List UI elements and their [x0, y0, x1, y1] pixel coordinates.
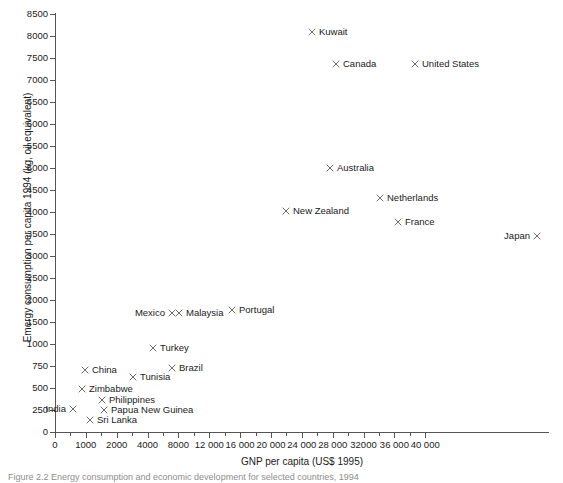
x-axis-minor-tick — [225, 433, 226, 436]
y-axis-tick-label: 7500 — [2, 53, 48, 63]
data-point-label: Brazil — [179, 363, 203, 373]
x-axis-tick — [209, 433, 210, 438]
plot-area: KuwaitCanadaUnited StatesAustraliaNether… — [55, 13, 548, 432]
cross-marker-icon — [282, 207, 290, 215]
cross-marker-icon — [98, 396, 106, 404]
y-axis-tick-label: 8000 — [2, 31, 48, 41]
y-axis-tick-label: 3500 — [2, 229, 48, 239]
x-axis-tick-label: 20 000 — [256, 440, 285, 450]
x-axis-minor-tick — [286, 433, 287, 436]
x-axis-minor-tick — [410, 433, 411, 436]
y-axis-tick-label: 8500 — [2, 9, 48, 19]
y-axis-tick-label: 2000 — [2, 295, 48, 305]
cross-marker-icon — [168, 309, 176, 317]
data-point-label: Australia — [337, 163, 374, 173]
cross-marker-icon — [69, 405, 77, 413]
cross-marker-icon — [129, 373, 137, 381]
y-axis-tick-label: 4000 — [2, 207, 48, 217]
data-point-label: Malaysia — [186, 308, 224, 318]
x-axis-title: GNP per capita (US$ 1995) — [55, 456, 549, 467]
x-axis-minor-tick — [194, 433, 195, 436]
y-axis-tick-label: 750 — [2, 361, 48, 371]
x-axis-tick — [117, 433, 118, 438]
cross-marker-icon — [533, 232, 541, 240]
x-axis-tick — [364, 433, 365, 438]
x-axis-tick — [271, 433, 272, 438]
cross-marker-icon — [175, 309, 183, 317]
x-axis-tick-label: 12 000 — [195, 440, 224, 450]
x-axis-tick-label: 1000 — [75, 440, 96, 450]
x-axis-tick — [55, 433, 56, 438]
x-axis-tick-label: 40 000 — [411, 440, 440, 450]
cross-marker-icon — [332, 60, 340, 68]
data-point-label: Tunisia — [140, 372, 170, 382]
data-point-label: Zimbabwe — [89, 384, 133, 394]
x-axis-minor-tick — [70, 433, 71, 436]
data-point-label: Japan — [504, 231, 530, 241]
cross-marker-icon — [411, 60, 419, 68]
y-axis-tick-label: 0 — [2, 427, 48, 437]
x-axis-tick — [86, 433, 87, 438]
data-point-label: China — [92, 365, 117, 375]
data-point-label: Netherlands — [387, 193, 438, 203]
x-axis-minor-tick — [256, 433, 257, 436]
data-point-label: Turkey — [160, 343, 189, 353]
x-axis-tick — [425, 433, 426, 438]
cross-marker-icon — [228, 306, 236, 314]
y-axis-tick-label: 5000 — [2, 163, 48, 173]
y-axis-tick-label: 2500 — [2, 273, 48, 283]
x-axis-tick — [148, 433, 149, 438]
data-point-label: Mexico — [135, 308, 165, 318]
cross-marker-icon — [81, 366, 89, 374]
data-point-label: Kuwait — [319, 27, 348, 37]
x-axis-tick-label: 0 — [52, 440, 57, 450]
data-point-label: India — [45, 404, 66, 414]
x-axis-tick-label: 4000 — [137, 440, 158, 450]
y-axis-tick-label: 7000 — [2, 75, 48, 85]
cross-marker-icon — [376, 194, 384, 202]
y-axis-tick-label: 5500 — [2, 141, 48, 151]
x-axis-tick — [178, 433, 179, 438]
y-axis-tick-label: 6000 — [2, 119, 48, 129]
y-axis-tick-label: 6500 — [2, 97, 48, 107]
y-axis-tick-label: 4500 — [2, 185, 48, 195]
scatter-chart-figure: Emergy consumption per capita 1994 (kg, … — [0, 0, 563, 483]
x-axis-minor-tick — [348, 433, 349, 436]
x-axis-minor-tick — [101, 433, 102, 436]
cross-marker-icon — [149, 344, 157, 352]
x-axis-minor-tick — [379, 433, 380, 436]
x-axis-tick-label: 8000 — [168, 440, 189, 450]
x-axis-tick-label: 2000 — [106, 440, 127, 450]
x-axis-tick — [333, 433, 334, 438]
data-point-label: Canada — [343, 59, 376, 69]
data-point-label: New Zealand — [293, 206, 349, 216]
cross-marker-icon — [100, 406, 108, 414]
x-axis-tick-label: 32000 — [350, 440, 376, 450]
x-axis-tick — [302, 433, 303, 438]
y-axis-tick-label: 1500 — [2, 317, 48, 327]
y-axis-tick-label: 3000 — [2, 251, 48, 261]
x-axis-tick-label: 28 000 — [318, 440, 347, 450]
data-point-label: Portugal — [239, 305, 274, 315]
cross-marker-icon — [308, 28, 316, 36]
x-axis-tick — [394, 433, 395, 438]
cross-marker-icon — [86, 416, 94, 424]
x-axis-tick-label: 24 000 — [287, 440, 316, 450]
y-axis-tick-label: 1000 — [2, 339, 48, 349]
y-axis-tick-label: 500 — [2, 383, 48, 393]
data-point-label: France — [405, 217, 435, 227]
data-point-label: United States — [422, 59, 479, 69]
x-axis-minor-tick — [317, 433, 318, 436]
data-point-label: Sri Lanka — [97, 415, 137, 425]
figure-caption: Figure 2.2 Energy consumption and econom… — [8, 472, 548, 483]
cross-marker-icon — [394, 218, 402, 226]
x-axis-tick — [240, 433, 241, 438]
y-axis-tick-label: 250 — [2, 405, 48, 415]
y-axis-tick-labels: 0250500750100015002000250030003500400045… — [0, 0, 48, 483]
x-axis-minor-tick — [163, 433, 164, 436]
x-axis-tick-label: 16 000 — [226, 440, 255, 450]
x-axis-minor-tick — [132, 433, 133, 436]
cross-marker-icon — [78, 385, 86, 393]
x-axis-tick-label: 36 000 — [380, 440, 409, 450]
cross-marker-icon — [326, 164, 334, 172]
